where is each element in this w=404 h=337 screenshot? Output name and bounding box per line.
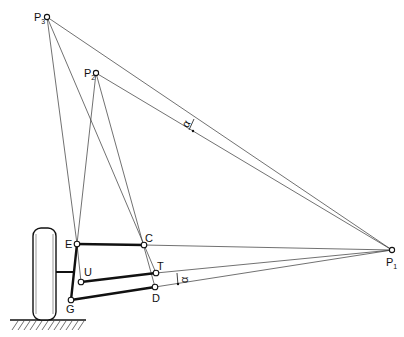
label-d: D [152, 292, 160, 304]
label-p2: P2 [84, 67, 95, 81]
svg-text:α: α [178, 276, 190, 283]
suspension-diagram: α α P3 P2 P1 E C U T D G [0, 0, 404, 337]
svg-text:α: α [179, 117, 193, 129]
point-g [68, 297, 74, 303]
label-p1: P1 [386, 256, 397, 270]
point-d [152, 284, 158, 290]
lower-arm [71, 287, 155, 300]
point-u [78, 279, 84, 285]
label-e: E [65, 238, 72, 250]
wheel [33, 228, 56, 320]
label-u: U [84, 266, 92, 278]
construction-lines [47, 17, 392, 287]
label-c: C [145, 232, 153, 244]
label-t: T [157, 260, 164, 272]
upper-arm [77, 244, 144, 245]
tie-rod [81, 273, 156, 282]
point-e [74, 241, 80, 247]
label-p3: P3 [34, 11, 45, 25]
point-p1 [389, 247, 394, 252]
angle-alpha-lower: α [177, 273, 190, 285]
label-g: G [66, 303, 75, 315]
ground [10, 320, 86, 330]
